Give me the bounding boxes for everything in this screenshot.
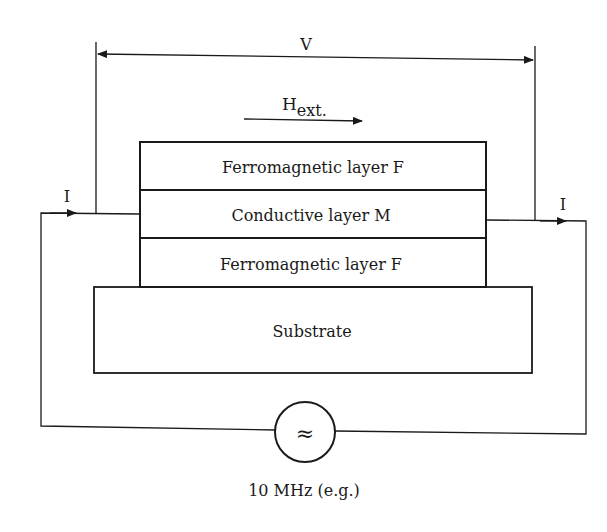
layer-label-ferromagnetic-bottom: Ferromagnetic layer F xyxy=(220,255,402,274)
current-label-right: I xyxy=(560,195,566,214)
voltage-measurement: V xyxy=(96,35,535,221)
wire-left xyxy=(41,213,275,430)
ac-source-symbol-icon: ≈ xyxy=(296,421,314,446)
gmr-measurement-diagram: V Hext. Ferromagnetic layer F Conductive… xyxy=(0,0,607,532)
current-label-left: I xyxy=(64,187,70,206)
ac-source: ≈ 10 MHz (e.g.) xyxy=(248,402,360,500)
voltage-dimension-arrow xyxy=(98,54,533,60)
field-label-subscript: ext. xyxy=(297,101,327,120)
substrate-label: Substrate xyxy=(272,322,351,341)
layer-stack: Ferromagnetic layer F Conductive layer M… xyxy=(140,142,486,287)
layer-label-conductive: Conductive layer M xyxy=(231,206,390,225)
substrate: Substrate xyxy=(94,287,532,373)
field-label-main: H xyxy=(282,94,297,114)
layer-label-ferromagnetic-top: Ferromagnetic layer F xyxy=(222,158,404,177)
voltage-label: V xyxy=(299,35,312,54)
field-label: Hext. xyxy=(282,94,327,120)
wire-right xyxy=(335,220,586,434)
external-field: Hext. xyxy=(244,94,362,121)
source-frequency-caption: 10 MHz (e.g.) xyxy=(248,481,360,500)
